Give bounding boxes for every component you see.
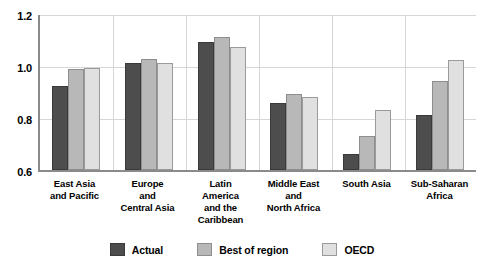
legend-swatch-icon	[110, 243, 125, 256]
bar-group-bars	[113, 15, 186, 170]
bar	[302, 97, 318, 170]
chart-legend: ActualBest of regionOECD	[0, 243, 484, 256]
bar-group-bars	[403, 15, 476, 170]
bar-group	[40, 15, 113, 170]
legend-swatch-icon	[197, 243, 212, 256]
y-axis-tick-label: 0.8	[0, 114, 32, 126]
bar	[198, 42, 214, 170]
bar-group	[403, 15, 476, 170]
x-axis-category-label: South Asia	[330, 178, 403, 226]
bar	[286, 94, 302, 170]
legend-item[interactable]: Best of region	[197, 243, 288, 256]
x-axis-category-label: East Asiaand Pacific	[38, 178, 111, 226]
legend-label: Best of region	[219, 244, 288, 256]
legend-label: OECD	[344, 244, 374, 256]
bar	[359, 136, 375, 170]
x-axis-category-label: Sub-SaharanAfrica	[403, 178, 476, 226]
bar-group	[258, 15, 331, 170]
bar	[270, 103, 286, 170]
x-axis-category-label: EuropeandCentral Asia	[111, 178, 184, 226]
legend-item[interactable]: Actual	[110, 243, 164, 256]
plot-area	[38, 15, 476, 172]
bar	[84, 68, 100, 170]
bar-group-bars	[331, 15, 404, 170]
bar	[343, 154, 359, 170]
bar	[68, 69, 84, 170]
bar	[375, 110, 391, 170]
x-axis-category-label: Middle EastandNorth Africa	[257, 178, 330, 226]
bar-group	[331, 15, 404, 170]
bar	[448, 60, 464, 170]
bar	[125, 63, 141, 170]
bar	[157, 63, 173, 170]
y-axis-tick-label: 1.2	[0, 10, 32, 22]
bar	[52, 86, 68, 170]
bar	[416, 115, 432, 170]
legend-swatch-icon	[322, 243, 337, 256]
bar-chart: 1.2 1.0 0.8 0.6 East Asiaand PacificEuro…	[0, 0, 484, 274]
x-axis-category-label: LatinAmericaand theCaribbean	[184, 178, 257, 226]
bar-group-bars	[40, 15, 113, 170]
bar-groups	[40, 15, 476, 170]
bar-group	[185, 15, 258, 170]
legend-item[interactable]: OECD	[322, 243, 374, 256]
bar	[230, 47, 246, 170]
x-axis-category-labels: East Asiaand PacificEuropeandCentral Asi…	[38, 178, 476, 226]
bar	[141, 59, 157, 170]
y-axis-tick-label: 0.6	[0, 166, 32, 178]
y-axis-tick-label: 1.0	[0, 62, 32, 74]
bar-group-bars	[258, 15, 331, 170]
legend-label: Actual	[132, 244, 164, 256]
bar-group-bars	[185, 15, 258, 170]
bar-group	[113, 15, 186, 170]
bar	[432, 81, 448, 170]
bar	[214, 37, 230, 171]
